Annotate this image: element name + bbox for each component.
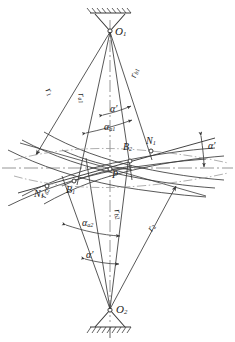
label-ra1: ra1 xyxy=(76,92,88,104)
label-alpha-a2: αa2 xyxy=(82,218,93,228)
radius-line-r2 xyxy=(110,186,176,309)
label-alpha-prime-bottom: α′ xyxy=(86,250,93,260)
point-B1 xyxy=(72,179,76,183)
point-N1 xyxy=(149,149,153,153)
label-alpha-a1: αa1 xyxy=(104,122,115,132)
bottom-radius-lines xyxy=(62,158,176,309)
label-P: P xyxy=(112,170,118,180)
point-B2 xyxy=(128,159,132,163)
radius-line-ra1 xyxy=(77,32,110,185)
gear-meshing-figure: O1 O2 P B1 B2 N1 N1′ r1 ra1 rb1 ra2 rb2 … xyxy=(0,0,235,342)
label-B1: B1 xyxy=(66,185,75,195)
angle-arc-alpha-prime-right xyxy=(201,136,204,167)
label-B2: B2 xyxy=(123,142,132,152)
label-O2: O2 xyxy=(116,304,127,316)
label-N1: N1 xyxy=(146,136,156,146)
label-alpha-prime-top: α′ xyxy=(110,104,117,114)
label-alpha-prime-right: α′ xyxy=(208,141,215,151)
label-O1: O1 xyxy=(115,26,126,38)
radius-line-ra2 xyxy=(62,176,110,309)
